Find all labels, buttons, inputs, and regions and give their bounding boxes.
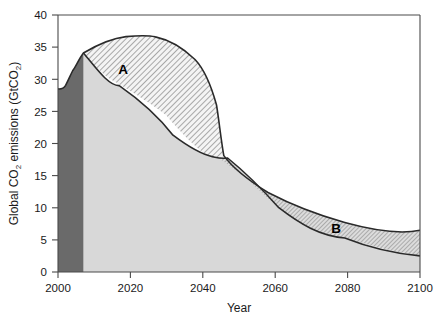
y-tick-label: 25: [34, 106, 47, 118]
x-axis-title: Year: [227, 301, 251, 315]
y-tick-label: 20: [34, 138, 47, 150]
x-tick-label: 2060: [262, 282, 288, 294]
y-tick-label: 0: [41, 266, 47, 278]
y-axis-title-mid: emissions (GtCO: [7, 70, 21, 165]
y-tick-label: 10: [34, 202, 47, 214]
region-b-label: B: [331, 221, 341, 236]
y-tick-label: 40: [34, 9, 47, 21]
x-tick-label: 2020: [118, 282, 144, 294]
y-axis-title-pre: Global CO: [7, 169, 21, 225]
y-tick-label: 35: [34, 41, 47, 53]
co2-emissions-chart: 0 5 10 15 20 25 30 35 40 2000 2020 2040 …: [0, 0, 438, 320]
y-axis-title-post: ): [7, 62, 21, 66]
svg-text:Global CO2 emissions (GtCO2): Global CO2 emissions (GtCO2): [7, 62, 23, 226]
y-tick-label: 5: [41, 234, 47, 246]
x-tick-label: 2040: [190, 282, 216, 294]
region-a-label: A: [118, 62, 128, 77]
x-tick-label: 2000: [45, 282, 71, 294]
x-tick-label: 2080: [335, 282, 361, 294]
chart-svg: 0 5 10 15 20 25 30 35 40 2000 2020 2040 …: [0, 0, 438, 320]
y-tick-label: 15: [34, 170, 47, 182]
y-axis-title: Global CO2 emissions (GtCO2): [7, 62, 23, 226]
y-tick-label: 30: [34, 74, 47, 86]
x-tick-label: 2100: [407, 282, 433, 294]
